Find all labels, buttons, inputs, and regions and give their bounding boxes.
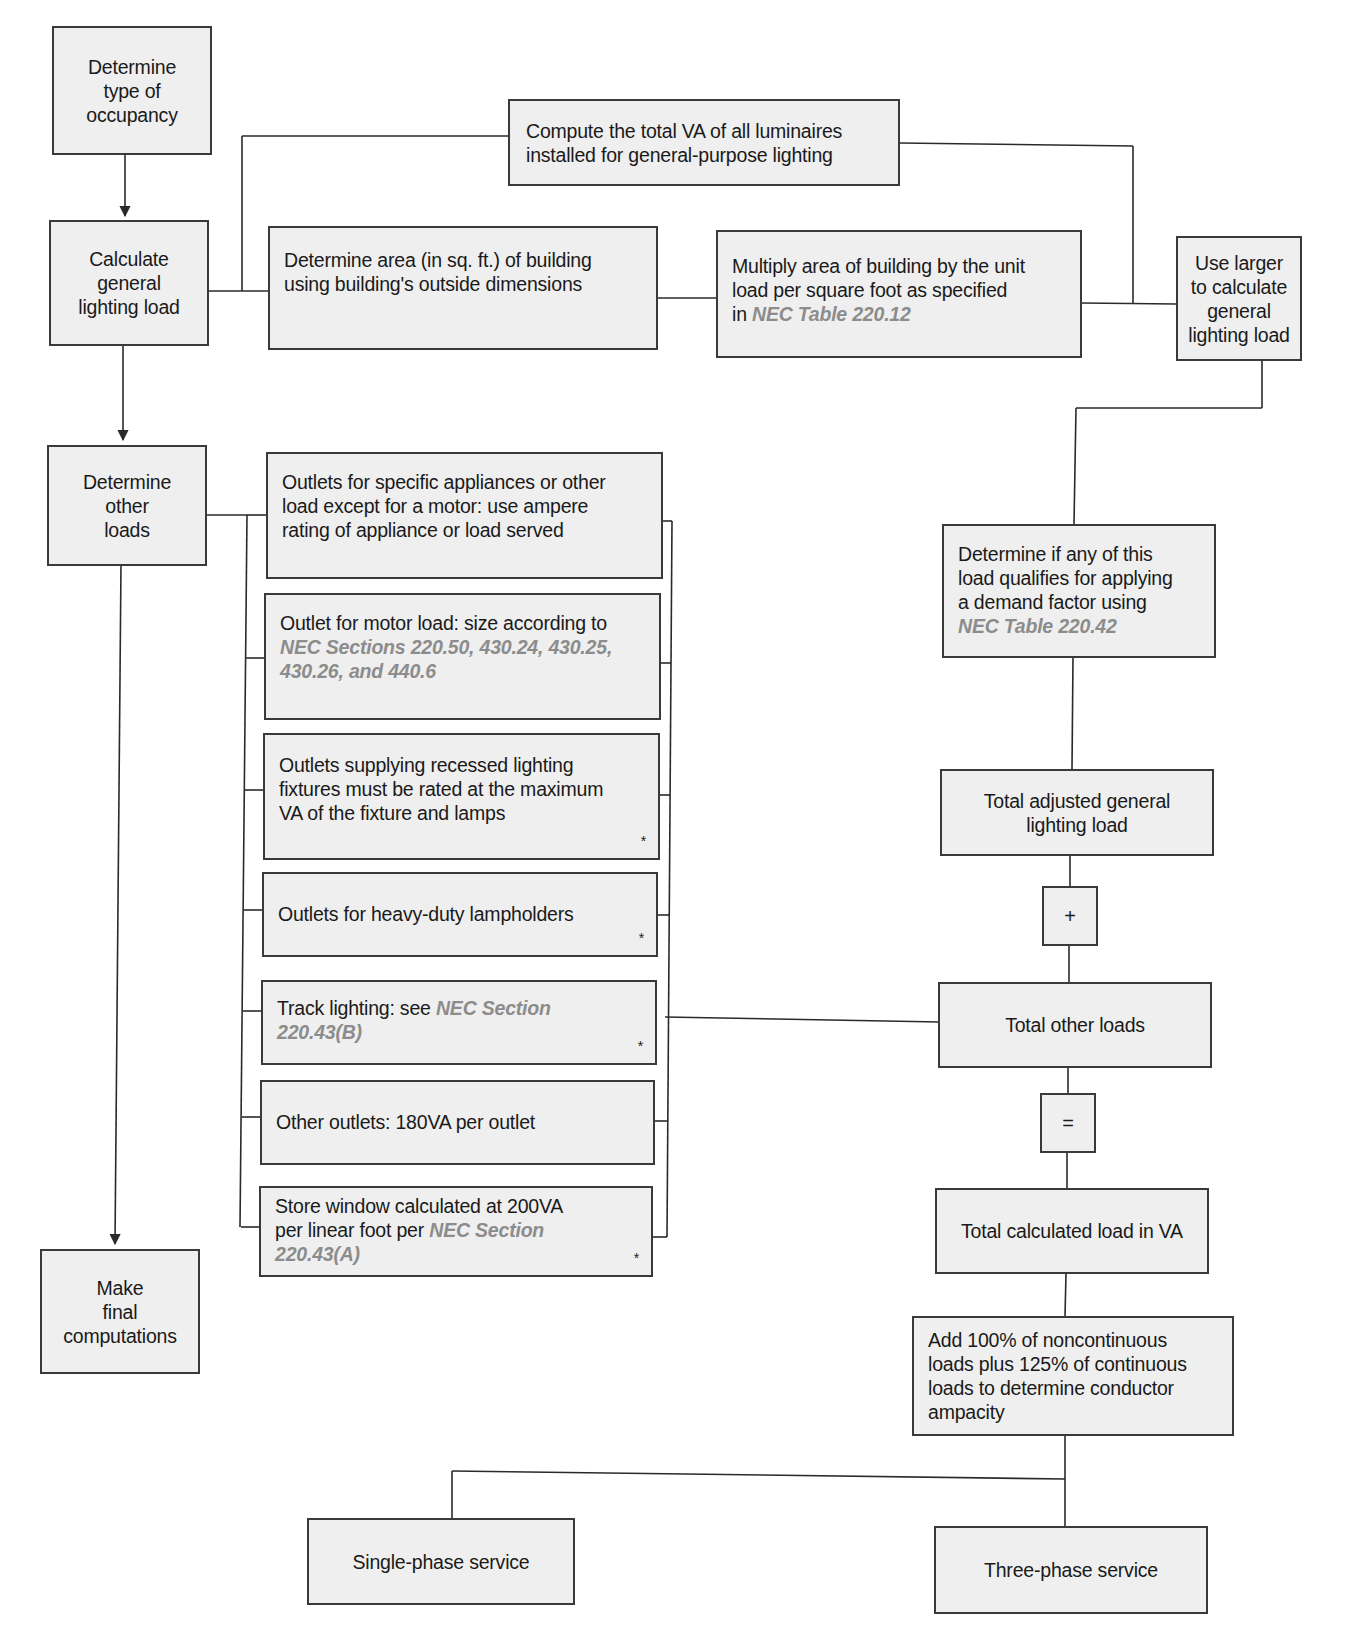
demand-factor-label: Determine if any of this load qualifies …	[958, 543, 1173, 613]
determine-other-loads-label: Determine other loads	[83, 470, 171, 542]
other-load-item-other-outlets: Other outlets: 180VA per outlet	[260, 1080, 655, 1165]
total-calculated-load-box: Total calculated load in VA	[935, 1188, 1209, 1274]
total-other-loads-box: Total other loads	[938, 982, 1212, 1068]
equals-icon: =	[1062, 1111, 1073, 1135]
make-final-computations-label: Make final computations	[63, 1276, 177, 1348]
determine-occupancy-box: Determine type of occupancy	[52, 26, 212, 155]
single-phase-service-box: Single-phase service	[307, 1518, 575, 1605]
calculate-general-lighting-label: Calculate general lighting load	[78, 247, 179, 319]
demand-factor-box: Determine if any of this load qualifies …	[942, 524, 1216, 658]
determine-area-label: Determine area (in sq. ft.) of building …	[284, 249, 592, 295]
other-load-item-text: Outlets for heavy-duty lampholders	[278, 903, 574, 925]
total-calculated-load-label: Total calculated load in VA	[961, 1219, 1183, 1243]
other-load-item-text: Other outlets: 180VA per outlet	[276, 1111, 535, 1133]
footnote-asterisk: *	[639, 931, 644, 945]
total-adjusted-lighting-box: Total adjusted general lighting load	[940, 769, 1214, 856]
footnote-asterisk: *	[638, 1039, 643, 1053]
footnote-asterisk: *	[634, 1251, 639, 1265]
determine-area-box: Determine area (in sq. ft.) of building …	[268, 226, 658, 350]
other-load-item-text: Outlet for motor load: size according to	[280, 612, 607, 634]
conductor-ampacity-label: Add 100% of noncontinuous loads plus 125…	[928, 1329, 1187, 1423]
flowchart-canvas: Determine type of occupancy Calculate ge…	[0, 0, 1370, 1641]
determine-other-loads-box: Determine other loads	[47, 445, 207, 566]
use-larger-label: Use larger to calculate general lighting…	[1188, 251, 1289, 347]
nec-sections-motor-reference: NEC Sections 220.50, 430.24, 430.25, 430…	[280, 636, 612, 682]
use-larger-box: Use larger to calculate general lighting…	[1176, 236, 1302, 361]
compute-luminaires-box: Compute the total VA of all luminaires i…	[508, 99, 900, 186]
plus-icon: +	[1064, 904, 1075, 928]
three-phase-service-label: Three-phase service	[984, 1558, 1158, 1582]
total-other-loads-label: Total other loads	[1005, 1013, 1145, 1037]
total-adjusted-lighting-label: Total adjusted general lighting load	[984, 789, 1170, 837]
nec-table-220-42-reference: NEC Table 220.42	[958, 615, 1117, 637]
single-phase-service-label: Single-phase service	[352, 1550, 529, 1574]
plus-operator-box: +	[1042, 886, 1098, 946]
other-load-item-text: Track lighting: see	[277, 997, 436, 1019]
other-load-item-store-window: Store window calculated at 200VA per lin…	[259, 1186, 653, 1277]
determine-occupancy-label: Determine type of occupancy	[86, 55, 177, 127]
equals-operator-box: =	[1040, 1093, 1096, 1153]
other-load-item-heavy-duty-lampholders: Outlets for heavy-duty lampholders *	[262, 872, 658, 957]
calculate-general-lighting-box: Calculate general lighting load	[49, 220, 209, 346]
footnote-asterisk: *	[641, 834, 646, 848]
other-load-item-text: Outlets supplying recessed lighting fixt…	[279, 754, 603, 824]
other-load-item-recessed-lighting: Outlets supplying recessed lighting fixt…	[263, 733, 660, 860]
other-load-item-track-lighting: Track lighting: see NEC Section 220.43(B…	[261, 980, 657, 1065]
nec-table-220-12-reference: NEC Table 220.12	[752, 303, 911, 325]
other-load-item-motor: Outlet for motor load: size according to…	[264, 593, 661, 720]
multiply-area-box: Multiply area of building by the unit lo…	[716, 230, 1082, 358]
other-load-item-appliances: Outlets for specific appliances or other…	[266, 452, 663, 579]
conductor-ampacity-box: Add 100% of noncontinuous loads plus 125…	[912, 1316, 1234, 1436]
compute-luminaires-label: Compute the total VA of all luminaires i…	[526, 119, 842, 167]
three-phase-service-box: Three-phase service	[934, 1526, 1208, 1614]
other-load-item-text: Outlets for specific appliances or other…	[282, 471, 606, 541]
make-final-computations-box: Make final computations	[40, 1249, 200, 1374]
